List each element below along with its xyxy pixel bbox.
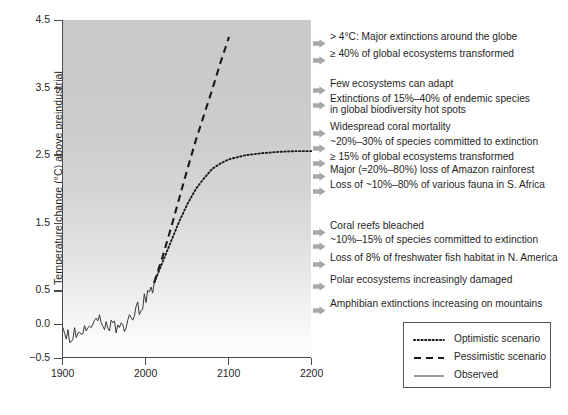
annotation-text: Polar ecosystems increasingly damaged	[330, 274, 512, 285]
annotation-row: ≥ 40% of global ecosystems transformed	[313, 48, 514, 60]
arrow-marker-icon	[313, 34, 326, 43]
legend-line-sample	[412, 332, 446, 344]
annotation-row: Loss of ~10%–80% of various fauna in S. …	[313, 179, 545, 191]
annotation-text: > 4°C: Major extinctions around the glob…	[330, 31, 517, 42]
annotation-text: Loss of 8% of freshwater fish habitat in…	[330, 252, 558, 263]
annotation-row: Major (≈20%–80%) loss of Amazon rainfore…	[313, 164, 534, 176]
annotation-text: ~10%–15% of species committed to extinct…	[330, 234, 538, 245]
climate-projection-chart: Temperature change (°C) above preindustr…	[0, 0, 568, 415]
annotation-row: Amphibian extinctions increasing on moun…	[313, 298, 542, 310]
legend-label: Pessimistic scenario	[454, 351, 546, 362]
x-tick: 2200	[311, 358, 312, 365]
y-tick-label: 0.5	[35, 283, 50, 295]
annotation-row: ~10%–15% of species committed to extinct…	[313, 234, 538, 246]
annotation-text: ≥ 15% of global ecosystems transformed	[330, 151, 514, 162]
y-tick: 1.5	[54, 223, 62, 224]
y-tick-label: 4.5	[35, 13, 50, 25]
arrow-marker-icon	[313, 223, 326, 232]
arrow-marker-icon	[313, 167, 326, 176]
y-tick-label: 1.5	[35, 216, 50, 228]
arrow-marker-icon	[313, 81, 326, 90]
x-tick-label: 2200	[300, 367, 323, 379]
arrow-marker-icon	[313, 154, 326, 163]
legend-item[interactable]: Observed	[412, 367, 498, 381]
annotation-text: Extinctions of 15%–40% of endemic specie…	[330, 93, 530, 116]
y-tick: 0.5	[54, 290, 62, 291]
annotation-text: Major (≈20%–80%) loss of Amazon rainfore…	[330, 164, 534, 175]
legend-label: Optimistic scenario	[454, 333, 540, 344]
chart-legend: Optimistic scenarioPessimistic scenarioO…	[403, 322, 551, 388]
arrow-marker-icon	[313, 96, 326, 105]
arrow-marker-icon	[313, 301, 326, 310]
y-tick: 4.5	[54, 20, 62, 21]
x-tick: 2100	[228, 358, 229, 365]
series-pessimistic-scenario	[154, 37, 229, 282]
legend-line-sample	[412, 368, 446, 380]
y-tick: 0.0	[54, 324, 62, 325]
legend-label: Observed	[454, 369, 498, 380]
x-tick-label: 2100	[217, 367, 240, 379]
y-tick-label: −0.5	[29, 351, 50, 363]
annotation-row: Polar ecosystems increasingly damaged	[313, 274, 512, 286]
annotation-text: Few ecosystems can adapt	[330, 78, 453, 89]
arrow-marker-icon	[313, 139, 326, 148]
x-tick: 2000	[145, 358, 146, 365]
annotation-row: > 4°C: Major extinctions around the glob…	[313, 31, 517, 43]
annotation-text: ~20%–30% of species committed to extinct…	[330, 136, 538, 147]
series-optimistic-scenario	[154, 151, 312, 282]
legend-item[interactable]: Pessimistic scenario	[412, 349, 546, 363]
annotation-row: Few ecosystems can adapt	[313, 78, 453, 90]
arrow-marker-icon	[313, 255, 326, 264]
plot-area	[62, 20, 311, 358]
annotation-text: Loss of ~10%–80% of various fauna in S. …	[330, 179, 545, 190]
y-tick: −0.5	[54, 358, 62, 359]
arrow-marker-icon	[313, 51, 326, 60]
series-observed	[63, 282, 154, 342]
annotation-text: Widespread coral mortality	[330, 121, 451, 132]
legend-line-sample	[412, 350, 446, 362]
annotation-row: Coral reefs bleached	[313, 220, 424, 232]
annotation-text: Coral reefs bleached	[330, 220, 424, 231]
annotation-row: Extinctions of 15%–40% of endemic specie…	[313, 93, 530, 116]
annotation-row: ~20%–30% of species committed to extinct…	[313, 136, 538, 148]
x-tick-label: 2000	[134, 367, 157, 379]
arrow-marker-icon	[313, 124, 326, 133]
y-tick: 2.5	[54, 155, 62, 156]
arrow-marker-icon	[313, 237, 326, 246]
y-tick-label: 2.5	[35, 148, 50, 160]
y-tick-label: 0.0	[35, 317, 50, 329]
y-tick-label: 3.5	[35, 81, 50, 93]
legend-item[interactable]: Optimistic scenario	[412, 331, 540, 345]
annotation-row: ≥ 15% of global ecosystems transformed	[313, 151, 514, 163]
arrow-marker-icon	[313, 182, 326, 191]
x-tick-label: 1900	[51, 367, 74, 379]
x-tick: 1900	[62, 358, 63, 365]
series-canvas	[63, 20, 312, 358]
annotation-text-line: in global biodiversity hot spots	[330, 104, 530, 115]
annotation-row: Loss of 8% of freshwater fish habitat in…	[313, 252, 558, 264]
y-tick: 3.5	[54, 88, 62, 89]
annotation-text: ≥ 40% of global ecosystems transformed	[330, 48, 514, 59]
annotation-row: Widespread coral mortality	[313, 121, 451, 133]
annotation-text: Amphibian extinctions increasing on moun…	[330, 298, 542, 309]
arrow-marker-icon	[313, 277, 326, 286]
